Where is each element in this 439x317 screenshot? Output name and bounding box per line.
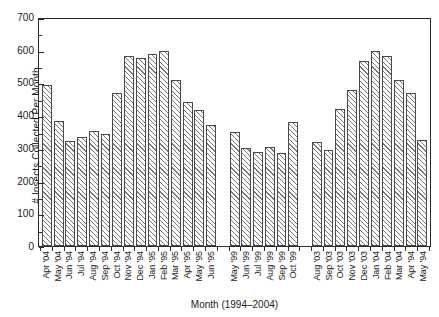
x-tick-label: Feb '95 [159,251,168,280]
x-label-slot: Aug '94 [87,251,99,297]
x-label-slot: Feb '95 [158,251,170,297]
x-tick-label: May '99 [230,251,239,282]
y-tick-label: 100 [4,209,34,219]
bar [335,109,345,246]
x-label-slot: Jun '95 [205,251,217,297]
x-label-slot: Jun '94 [64,251,76,297]
bar-slot [158,19,170,246]
bar-slot [182,19,194,246]
x-label-slot: Apr '95 [181,251,193,297]
x-label-slot: Sep '94 [99,251,111,297]
bar [171,80,181,246]
bar [89,131,99,246]
x-tick-label: Jan '95 [147,251,156,279]
y-tick-major [39,52,44,53]
x-tick-label: Apr '95 [183,251,192,279]
x-label-slot: Dec '03 [358,251,370,297]
y-tick-label: 500 [4,78,34,88]
bar [371,51,381,246]
x-tick-label: Jun '94 [65,251,74,279]
bar [65,141,75,246]
bar-gap [217,19,229,246]
y-tick-label: 400 [4,111,34,121]
y-tick-minor [39,101,42,102]
x-tick-label: Dec '94 [136,251,145,281]
x-tick-label: Jun '99 [242,251,251,279]
x-axis-tick-labels: Apr '04May '04Jun '94Jul '94Aug '94Sep '… [38,251,431,297]
y-tick-label: 0 [4,242,34,252]
x-tick [217,247,218,251]
bar [136,58,146,246]
bar [230,132,240,247]
bar [265,147,275,246]
x-label-slot: Nov '94 [122,251,134,297]
x-label-slot: Apr '04 [40,251,52,297]
x-tick-label: Jul '94 [77,251,86,276]
x-tick [429,247,430,251]
bar-slot [311,19,323,246]
bar-slot [276,19,288,246]
x-tick-label: Oct '99 [289,251,298,279]
y-tick-minor [39,35,42,36]
bar-slot [64,19,76,246]
x-label-slot: Aug '99 [264,251,276,297]
bar-slot [205,19,217,246]
bar-slot [334,19,346,246]
x-tick-label: Jun '95 [206,251,215,279]
x-label-slot: Apr '94 [405,251,417,297]
x-tick [240,247,241,251]
x-tick [299,247,300,251]
bar-slot [88,19,100,246]
x-tick [146,247,147,251]
bar [77,137,87,246]
y-tick-major [39,117,44,118]
bar [394,80,404,246]
bar [54,121,64,246]
x-tick-label: Apr '04 [41,251,50,279]
y-tick-major [39,215,44,216]
y-tick-minor [39,68,42,69]
bar-slot [111,19,123,246]
x-tick-label: Mar '95 [171,251,180,280]
x-tick-label: Apr '94 [407,251,416,279]
bar-slot [252,19,264,246]
x-tick-label: Aug '03 [312,251,321,281]
x-tick-label: Sep '03 [324,251,333,281]
x-tick-label: Aug '99 [265,251,274,281]
x-tick-label: Nov '03 [348,251,357,281]
x-tick-label: Dec '03 [359,251,368,281]
bar [253,152,263,246]
bar-slot [76,19,88,246]
bar [124,56,134,246]
plot-area [38,18,431,247]
y-tick-label: 700 [4,13,34,23]
bar-slot [381,19,393,246]
x-label-slot [217,251,229,297]
x-tick [394,247,395,251]
x-label-slot: Sep '99 [276,251,288,297]
x-label-slot: Oct '94 [111,251,123,297]
y-tick-major [39,84,44,85]
y-tick-minor [39,166,42,167]
bar-slot [123,19,135,246]
x-label-slot: Jan '04 [370,251,382,297]
x-label-slot: May '94 [417,251,429,297]
bar [42,85,52,246]
bar [417,140,427,246]
bar [324,150,334,246]
y-tick-minor [39,232,42,233]
x-label-slot: May '95 [193,251,205,297]
x-label-slot: May '99 [229,251,241,297]
bar [359,61,369,246]
insect-collection-bar-chart: # Insects Collected Per Month 0100200300… [0,0,439,317]
x-tick-label: Oct '94 [112,251,121,279]
x-tick [370,247,371,251]
bar-slot [346,19,358,246]
bar-slot [405,19,417,246]
y-tick-label: 300 [4,144,34,154]
x-tick-label: Mar '04 [395,251,404,280]
x-label-slot: Mar '95 [170,251,182,297]
x-label-slot: Feb '04 [382,251,394,297]
bar [183,102,193,246]
bar [312,142,322,246]
